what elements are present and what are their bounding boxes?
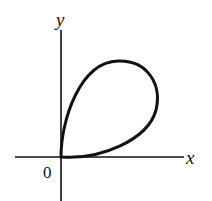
y-axis-label: y: [54, 9, 65, 30]
origin-label: 0: [43, 163, 52, 182]
diagram-canvas: y x 0: [0, 0, 212, 201]
loop-curve: [61, 61, 157, 157]
x-axis-label: x: [185, 147, 195, 168]
